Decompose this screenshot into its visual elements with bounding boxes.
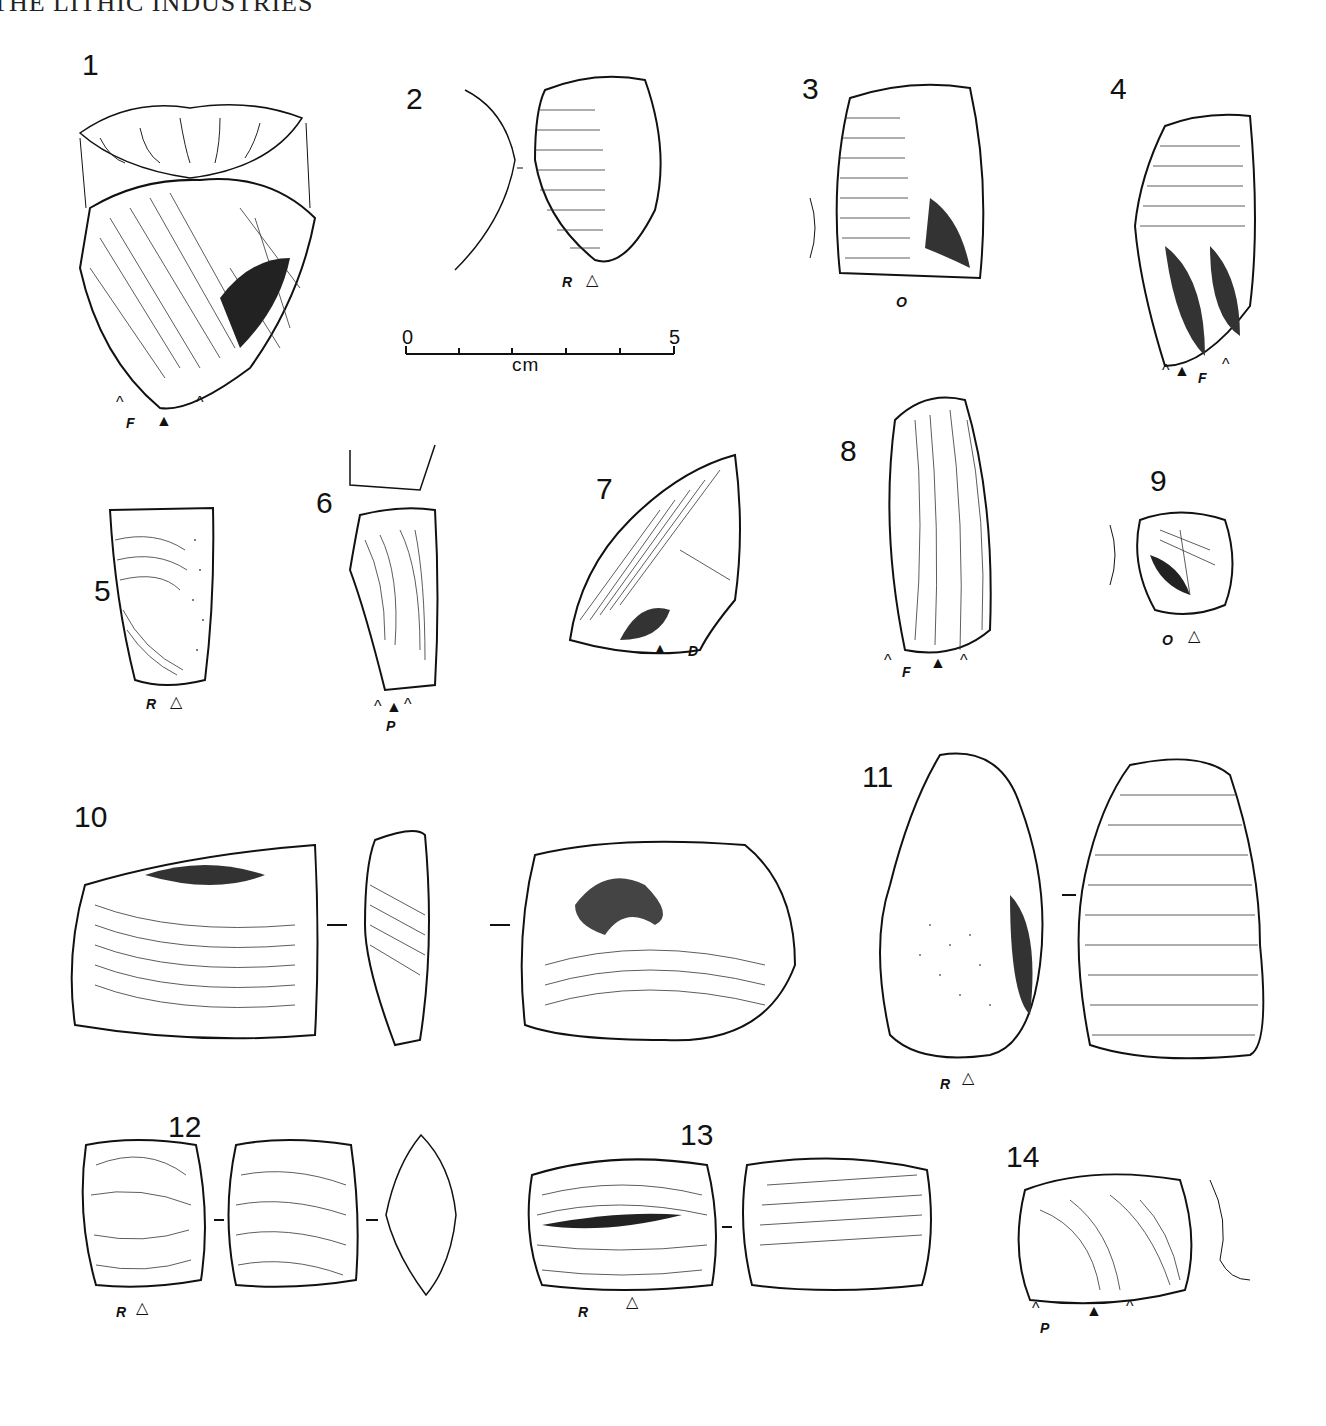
platform-caret-right: ^ bbox=[960, 652, 968, 670]
figure-number-8: 8 bbox=[840, 434, 857, 468]
platform-caret-right: ^ bbox=[404, 696, 412, 714]
artifact-2-type-label: R bbox=[562, 274, 572, 290]
butt-marker-filled: ▲ bbox=[930, 654, 946, 672]
butt-marker-filled: ▲ bbox=[1174, 362, 1190, 380]
butt-marker-open: △ bbox=[1188, 626, 1200, 645]
platform-caret-left: ^ bbox=[1032, 1300, 1040, 1318]
artifact-9-drawing bbox=[1100, 505, 1240, 620]
running-head: THE LITHIC INDUSTRIES bbox=[0, 0, 313, 18]
artifact-4-drawing bbox=[1125, 106, 1265, 366]
butt-marker-open: △ bbox=[626, 1292, 638, 1311]
scale-ruler bbox=[404, 342, 676, 356]
artifact-7-type-label: D bbox=[688, 643, 698, 659]
artifact-3-drawing bbox=[800, 78, 990, 293]
butt-marker-open: △ bbox=[170, 692, 182, 711]
artifact-14-type-label: P bbox=[1040, 1320, 1049, 1336]
figure-number-9: 9 bbox=[1150, 464, 1167, 498]
artifact-13-drawing bbox=[522, 1145, 942, 1295]
artifact-13-type-label: R bbox=[578, 1304, 588, 1320]
artifact-11-drawing bbox=[870, 745, 1280, 1070]
figure-number-4: 4 bbox=[1110, 72, 1127, 106]
artifact-11-type-label: R bbox=[940, 1076, 950, 1092]
artifact-1-drawing bbox=[70, 68, 320, 413]
artifact-14-drawing bbox=[1010, 1160, 1260, 1310]
artifact-1-type-label: F bbox=[126, 415, 135, 431]
artifact-8-drawing bbox=[875, 380, 1000, 660]
artifact-3-type-label: O bbox=[896, 294, 907, 310]
artifact-8-type-label: F bbox=[902, 664, 911, 680]
butt-marker-filled: ▲ bbox=[156, 412, 172, 430]
artifact-9-type-label: O bbox=[1162, 632, 1173, 648]
artifact-2-drawing bbox=[445, 70, 665, 270]
artifact-6-drawing bbox=[340, 440, 450, 700]
artifact-6-type-label: P bbox=[386, 718, 395, 734]
artifact-12-type-label: R bbox=[116, 1304, 126, 1320]
platform-caret-left: ^ bbox=[1162, 362, 1170, 380]
artifact-5-drawing bbox=[95, 500, 225, 690]
platform-caret-left: ^ bbox=[116, 394, 124, 412]
butt-marker-filled: ▲ bbox=[386, 698, 402, 716]
artifact-7-drawing bbox=[560, 450, 750, 660]
platform-caret-right: ^ bbox=[1126, 1298, 1134, 1316]
artifact-4-type-label: F bbox=[1198, 370, 1207, 386]
figure-number-2: 2 bbox=[406, 82, 423, 116]
platform-caret-right: ^ bbox=[196, 394, 204, 412]
butt-marker-open: △ bbox=[586, 270, 598, 289]
figure-number-6: 6 bbox=[316, 486, 333, 520]
scale-bar: 0 5 cm bbox=[404, 328, 676, 378]
butt-marker-filled: ▲ bbox=[1086, 1302, 1102, 1320]
platform-caret-left: ^ bbox=[374, 698, 382, 716]
artifact-5-type-label: R bbox=[146, 696, 156, 712]
scale-unit-label: cm bbox=[512, 354, 539, 376]
artifact-10-drawing bbox=[65, 825, 805, 1045]
artifact-12-drawing bbox=[76, 1125, 466, 1295]
butt-marker-open: △ bbox=[136, 1298, 148, 1317]
platform-caret-right: ^ bbox=[1222, 356, 1230, 374]
platform-caret-left: ^ bbox=[884, 652, 892, 670]
butt-marker-open: △ bbox=[962, 1068, 974, 1087]
butt-marker-filled: ▲ bbox=[652, 640, 668, 658]
